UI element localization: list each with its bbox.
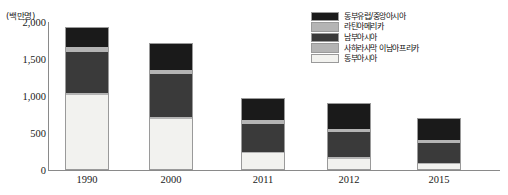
bar-2012 [327,103,371,170]
bar-segment [417,118,461,140]
y-axis-tick-label: 1,000 [2,91,46,102]
bar-segment [241,124,285,151]
x-axis-tick-label: 1990 [77,174,98,185]
x-axis-tick-label: 2011 [253,174,274,185]
stacked-bar-chart: (백만명) 05001,0001,5002,000 동부유럽/중앙아시아라틴아메… [0,0,508,195]
legend-color-swatch [311,54,339,63]
y-axis-tick-label: 2,000 [2,17,46,28]
legend-label: 동부아시아 [344,54,377,63]
legend-label: 라틴아메리카 [344,22,384,31]
bar-segment [241,153,285,170]
legend-item: 동부유럽/중앙아시아 [311,11,419,22]
legend-color-swatch [311,22,339,31]
bar-segment [65,52,109,93]
legend-color-swatch [311,43,339,52]
x-axis-tick-label: 2015 [429,174,450,185]
bar-segment [417,164,461,170]
y-axis-tick-labels: 05001,0001,5002,000 [0,0,46,195]
y-axis-tick-label: 0 [2,165,46,176]
y-axis-tick-label: 500 [2,128,46,139]
legend-item: 라틴아메리카 [311,22,419,33]
bar-segment [65,27,109,47]
bar-segment [149,74,193,117]
x-axis-line [48,170,500,171]
bar-2000 [149,43,193,170]
bar-segment [417,143,461,163]
plot-area [49,22,500,170]
legend-label: 남부아시아 [344,33,377,42]
x-axis-tick-label: 2000 [161,174,182,185]
bar-1990 [65,27,109,170]
legend-color-swatch [311,12,339,21]
legend-label: 사하라사막 이남아프리카 [344,44,419,53]
bar-segment [65,95,109,170]
bar-2015 [417,118,461,170]
legend-item: 동부아시아 [311,53,419,64]
y-axis-tick-label: 1,500 [2,54,46,65]
bar-segment [149,119,193,170]
x-axis-tick-label: 2012 [339,174,360,185]
bar-segment [241,98,285,120]
bar-segment [327,132,371,157]
bar-segment [327,159,371,170]
legend-item: 사하라사막 이남아프리카 [311,43,419,54]
chart-legend: 동부유럽/중앙아시아라틴아메리카남부아시아사하라사막 이남아프리카동부아시아 [311,11,419,64]
bar-segment [327,103,371,128]
bar-segment [149,43,193,70]
bar-2011 [241,98,285,170]
legend-label: 동부유럽/중앙아시아 [344,12,406,21]
legend-color-swatch [311,33,339,42]
legend-item: 남부아시아 [311,32,419,43]
